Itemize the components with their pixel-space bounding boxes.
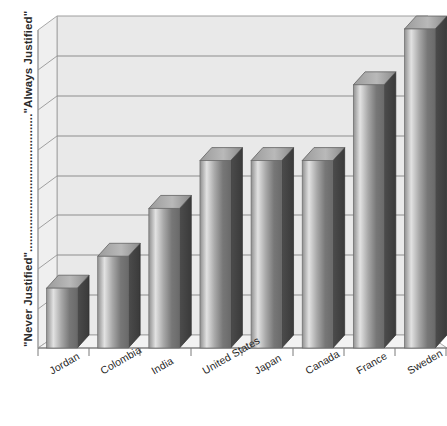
x-tick-label-india: India bbox=[149, 354, 175, 376]
bar-chart-figure: "Never Justified".......................… bbox=[0, 0, 447, 426]
x-tick-label-france: France bbox=[354, 349, 389, 376]
x-axis-labels: JordanColombiaIndiaUnited StatesJapanCan… bbox=[0, 0, 447, 426]
x-tick-label-colombia: Colombia bbox=[98, 343, 143, 376]
x-tick-label-sweden: Sweden bbox=[405, 347, 444, 377]
x-tick-label-canada: Canada bbox=[303, 347, 341, 376]
x-tick-label-united-states: United States bbox=[200, 334, 262, 377]
x-tick-label-japan: Japan bbox=[252, 351, 283, 376]
x-tick-label-jordan: Jordan bbox=[47, 350, 81, 377]
